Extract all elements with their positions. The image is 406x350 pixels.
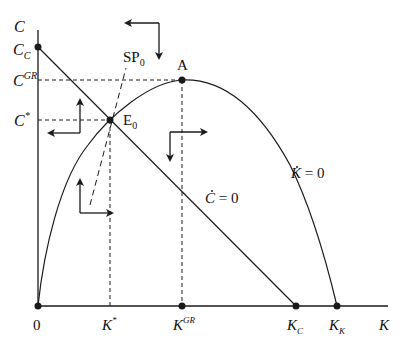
x-axis-label: K [378, 317, 390, 333]
c-dot-zero-line [38, 47, 296, 306]
point-a-label: A [177, 57, 188, 73]
saddle-path [90, 68, 126, 205]
arrows-upper-left [49, 100, 80, 133]
point-cc [35, 44, 42, 51]
x-tick-kgr: KGR [172, 315, 196, 333]
y-tick-cgr: CGR [13, 70, 37, 89]
origin-label: 0 [33, 317, 41, 333]
point-origin [35, 303, 42, 310]
y-tick-cc: CC [13, 41, 31, 61]
arrows-lower-right [170, 132, 206, 160]
svg-text:C = 0: C = 0 [205, 190, 238, 206]
arrows-lower-left [80, 180, 112, 213]
saddle-path-label: SP0 [123, 49, 145, 68]
point-kk [334, 303, 341, 310]
point-kgr [179, 303, 186, 310]
y-tick-cstar: C* [14, 110, 30, 129]
k-dot-zero-label: K = 0 [290, 165, 324, 181]
c-dot-zero-label: C = 0 [205, 190, 238, 206]
point-a [179, 77, 186, 84]
phase-diagram: C CC CGR C* 0 K* KGR KC KK K A E0 SP0 K … [0, 0, 406, 350]
point-e0 [107, 117, 114, 124]
y-axis-label: C [14, 18, 25, 35]
x-tick-kstar: K* [101, 315, 117, 333]
point-e0-label: E0 [123, 112, 137, 131]
svg-text:K = 0: K = 0 [290, 165, 324, 181]
k-dot-zero-curve [38, 80, 337, 306]
x-tick-kk: KK [328, 317, 346, 336]
x-tick-kc: KC [286, 317, 304, 336]
point-kc [293, 303, 300, 310]
